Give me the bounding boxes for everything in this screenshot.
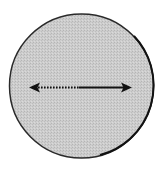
circle-shape — [10, 14, 154, 158]
diagram-canvas — [0, 0, 162, 170]
